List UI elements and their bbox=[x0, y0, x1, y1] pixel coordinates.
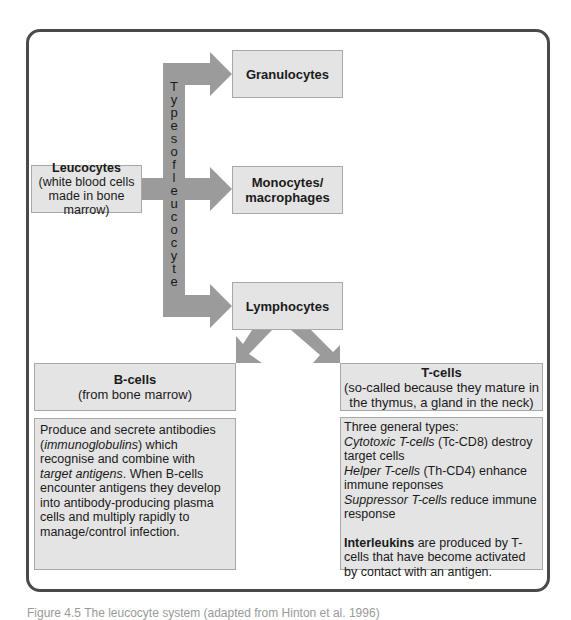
leucocytes-subtitle: (white blood cells made in bone marrow) bbox=[32, 175, 141, 217]
arrow-to-tcells-icon bbox=[291, 330, 340, 363]
leucocytes-box: Leucocytes (white blood cells made in bo… bbox=[31, 165, 142, 213]
tcells-interleukins: Interleukins are produced by T-cells tha… bbox=[344, 536, 539, 580]
bcells-title: B-cells bbox=[114, 372, 157, 387]
tcells-type-helper: Helper T-cells (Th-CD4) enhance immune r… bbox=[344, 464, 539, 493]
lymphocytes-title: Lymphocytes bbox=[246, 299, 329, 314]
granulocytes-box: Granulocytes bbox=[232, 50, 343, 98]
bcells-body-box: Produce and secrete antibodies (immunogl… bbox=[34, 418, 236, 570]
tcells-title: T-cells bbox=[421, 365, 461, 380]
lymphocytes-box: Lymphocytes bbox=[232, 282, 343, 330]
leucocytes-title: Leucocytes bbox=[52, 161, 121, 175]
tcells-header-box: T-cells (so-called because they mature i… bbox=[340, 363, 543, 411]
arrow-to-bcells-icon bbox=[236, 330, 272, 363]
bcells-description: Produce and secrete antibodies (immunogl… bbox=[40, 423, 230, 539]
bcells-subtitle: (from bone marrow) bbox=[78, 387, 192, 402]
tcells-type-suppressor: Suppressor T-cells reduce immune respons… bbox=[344, 493, 539, 522]
monocytes-title-line1: Monocytes/ bbox=[252, 175, 324, 190]
figure-caption: Figure 4.5 The leucocyte system (adapted… bbox=[27, 606, 380, 620]
monocytes-box: Monocytes/ macrophages bbox=[232, 166, 343, 214]
tcells-body-box: Three general types: Cytotoxic T-cells (… bbox=[340, 417, 543, 570]
monocytes-title-line2: macrophages bbox=[245, 190, 330, 205]
granulocytes-title: Granulocytes bbox=[246, 67, 329, 82]
types-of-leucocyte-label: T y p e s o f l e u c o c y t e bbox=[163, 80, 185, 288]
tcells-intro: Three general types: bbox=[344, 420, 539, 435]
bcells-header-box: B-cells (from bone marrow) bbox=[34, 363, 236, 411]
tcells-subtitle: (so-called because they mature in the th… bbox=[341, 380, 542, 410]
types-arrow-icon bbox=[141, 52, 232, 328]
tcells-type-cytotoxic: Cytotoxic T-cells (Tc-CD8) destroy targe… bbox=[344, 435, 539, 464]
